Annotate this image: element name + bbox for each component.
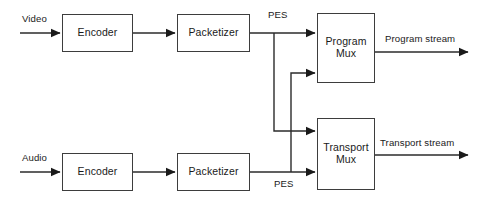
node-audio-packetizer-label: Packetizer: [188, 166, 238, 178]
wire-video-packetizer-to-transport-mux: [274, 33, 315, 131]
node-video-packetizer-label: Packetizer: [188, 27, 238, 39]
node-video-encoder-label: Encoder: [78, 27, 118, 39]
label-transport-stream-output: Transport stream: [380, 137, 454, 148]
label-audio-pes: PES: [274, 178, 294, 189]
node-transport-mux-label: Transport Mux: [323, 142, 368, 166]
label-video-input: Video: [22, 13, 47, 24]
node-transport-mux[interactable]: Transport Mux: [317, 118, 375, 190]
node-program-mux[interactable]: Program Mux: [317, 13, 375, 83]
node-program-mux-label: Program Mux: [326, 36, 367, 60]
node-audio-encoder-label: Encoder: [78, 166, 118, 178]
node-video-encoder[interactable]: Encoder: [62, 14, 133, 52]
node-audio-encoder[interactable]: Encoder: [62, 153, 133, 191]
block-diagram: Encoder Packetizer Program Mux Encoder P…: [0, 0, 477, 203]
node-video-packetizer[interactable]: Packetizer: [177, 14, 250, 52]
label-audio-input: Audio: [22, 152, 47, 163]
node-audio-packetizer[interactable]: Packetizer: [177, 153, 250, 191]
label-video-pes: PES: [268, 9, 288, 20]
label-program-stream-output: Program stream: [385, 33, 455, 44]
wire-audio-packetizer-to-program-mux: [291, 73, 315, 172]
